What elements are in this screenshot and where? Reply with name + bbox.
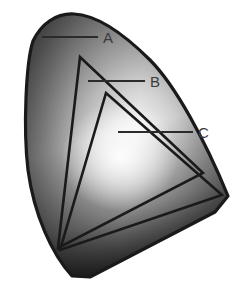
gamut-diagram-svg [0,0,245,286]
region-label-b: B [150,74,160,89]
region-label-a: A [103,30,113,45]
spectral-locus-region [0,0,245,286]
region-label-c: C [198,125,209,140]
chromaticity-figure: A B C [0,0,245,286]
